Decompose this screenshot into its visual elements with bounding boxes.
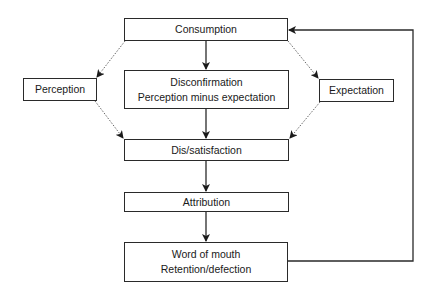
node-attribution: Attribution <box>124 192 289 212</box>
node-attribution-label: Attribution <box>183 195 230 210</box>
node-retention-label: Retention/defection <box>161 262 251 277</box>
node-disconfirmation-label: Disconfirmation <box>170 75 242 90</box>
node-disconfirmation: Disconfirmation Perception minus expecta… <box>124 70 289 109</box>
dotted-arrow-consumption-to-expectation <box>288 41 318 78</box>
node-dissatisfaction-label: Dis/satisfaction <box>171 143 242 158</box>
node-consumption-label: Consumption <box>175 22 237 37</box>
node-word-of-mouth: Word of mouth Retention/defection <box>124 242 288 282</box>
node-expectation: Expectation <box>319 79 394 102</box>
dotted-arrow-perception-to-dissatisfaction <box>95 101 123 138</box>
dotted-arrow-expectation-to-dissatisfaction <box>290 102 320 138</box>
node-disconfirmation-sublabel: Perception minus expectation <box>138 90 276 105</box>
node-perception: Perception <box>23 78 97 101</box>
node-dissatisfaction: Dis/satisfaction <box>124 139 289 161</box>
node-consumption: Consumption <box>124 18 288 41</box>
dotted-arrow-consumption-to-perception <box>97 41 125 77</box>
node-perception-label: Perception <box>35 82 85 97</box>
node-word-of-mouth-label: Word of mouth <box>172 247 241 262</box>
node-expectation-label: Expectation <box>329 83 384 98</box>
